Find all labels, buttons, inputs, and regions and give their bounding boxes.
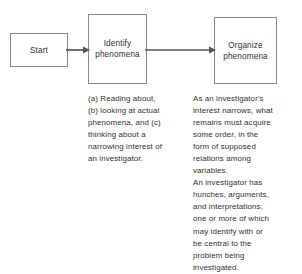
- flow-node-organize-phenomena-label: Organize phenomena: [220, 40, 271, 62]
- arrow-identify-to-organize-icon: [145, 44, 216, 56]
- flow-node-organize-phenomena[interactable]: Organize phenomena: [214, 17, 277, 84]
- note-identify-phenomena: (a) Reading about, (b) looking at actual…: [88, 93, 188, 165]
- flow-node-start[interactable]: Start: [10, 33, 68, 67]
- note-organize-phenomena: As an investigator's interest narrows, w…: [193, 93, 301, 274]
- flow-node-start-label: Start: [27, 45, 51, 56]
- flow-node-identify-phenomena[interactable]: Identify phenomena: [88, 14, 147, 84]
- flow-node-identify-phenomena-label: Identify phenomena: [92, 38, 143, 60]
- arrow-start-to-identify-icon: [66, 44, 90, 56]
